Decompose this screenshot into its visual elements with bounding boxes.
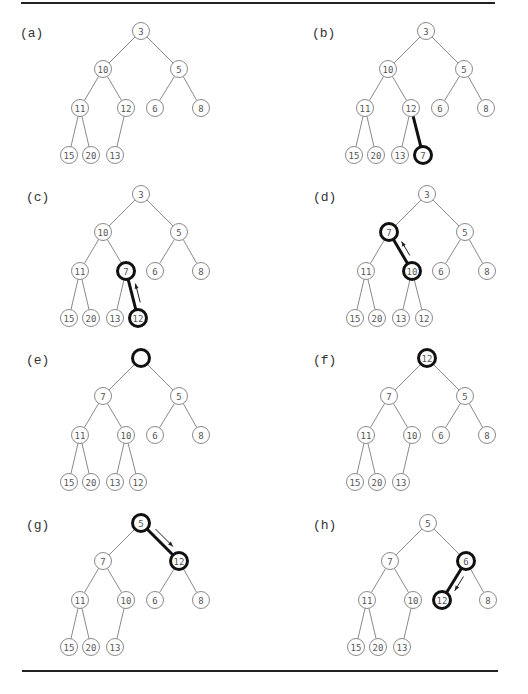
heap-node: 3 [418, 23, 435, 40]
node-value: 15 [64, 151, 75, 161]
tree-edge [117, 116, 124, 146]
heap-node: 11 [72, 263, 89, 280]
node-value: 11 [361, 267, 372, 277]
panel-e: (e)7511106815201312 [26, 350, 210, 491]
tree-edge [392, 76, 406, 100]
panel-label: (h) [313, 518, 336, 533]
tree-edge [404, 608, 411, 638]
heap-node: 10 [95, 224, 112, 241]
heap-node: 15 [61, 639, 78, 656]
panel-label: (g) [26, 518, 49, 533]
tree-edge [368, 279, 375, 309]
node-value: 13 [396, 478, 407, 488]
node-value: 10 [407, 431, 418, 441]
heap-node: 11 [358, 427, 375, 444]
tree-edge [367, 116, 374, 146]
tree-edge [469, 403, 483, 427]
tree-edge [107, 568, 121, 592]
heap-node: 20 [83, 310, 100, 327]
heap-node: 15 [347, 474, 364, 491]
panel-b: (b)31051112681520137 [312, 23, 495, 164]
heap-node: 15 [61, 147, 78, 164]
node-value: 12 [437, 596, 448, 606]
heap-node: 15 [346, 147, 363, 164]
tree-edge [109, 364, 135, 390]
heap-node: 6 [147, 263, 164, 280]
node-value: 10 [408, 596, 419, 606]
heap-node: 13 [107, 639, 124, 656]
tree-edge [183, 239, 197, 263]
heap-node: 11 [357, 100, 374, 117]
node-value: 11 [75, 267, 86, 277]
tree-edge [433, 364, 459, 390]
node-value: 6 [152, 431, 157, 441]
tree-edge [394, 568, 408, 592]
tree-edge [403, 443, 410, 473]
heap-node: 5 [457, 388, 474, 405]
tree-edge [128, 279, 136, 310]
tree-edge [468, 76, 482, 100]
panel-label: (c) [26, 190, 49, 205]
tree-edge [368, 443, 375, 473]
tree-edge [159, 403, 174, 428]
node-value: 3 [423, 27, 428, 37]
tree-edge [394, 37, 420, 63]
tree-edge [395, 364, 421, 390]
heap-node: 6 [432, 100, 449, 117]
heap-node: 6 [458, 553, 475, 570]
node-value: 6 [152, 596, 157, 606]
heap-node: 12 [171, 553, 188, 570]
tree-edge [369, 76, 383, 100]
heap-node: 20 [369, 474, 386, 491]
node-value: 15 [64, 643, 75, 653]
heap-node: 20 [370, 639, 387, 656]
node-value: 15 [350, 478, 361, 488]
tree-edge [147, 200, 173, 226]
node-value: 6 [437, 104, 442, 114]
heap-node: 15 [61, 310, 78, 327]
heap-node: 5 [171, 224, 188, 241]
tree-edge [446, 568, 461, 593]
heap-node: 5 [456, 61, 473, 78]
heap-node: 3 [133, 186, 150, 203]
tree-edge [107, 76, 121, 100]
node-value: 13 [395, 151, 406, 161]
node-value: 20 [371, 151, 382, 161]
node-value: 12 [133, 478, 144, 488]
tree-edge [445, 403, 460, 428]
node-value: 11 [361, 431, 372, 441]
heap-node: 13 [107, 310, 124, 327]
heap-node: 12 [118, 100, 135, 117]
tree-edge [82, 443, 89, 473]
node-value: 3 [424, 190, 429, 200]
heap-node: 15 [348, 639, 365, 656]
heap-node: 12 [434, 592, 451, 609]
node-value: 13 [397, 643, 408, 653]
node-value: 7 [386, 392, 391, 402]
tree-edge [434, 529, 460, 555]
node-value: 15 [349, 151, 360, 161]
heap-node: 6 [147, 427, 164, 444]
heap-node: 10 [118, 427, 135, 444]
swap-arrow-icon [155, 529, 172, 546]
node-value: 5 [462, 228, 467, 238]
heap-node: 8 [478, 100, 495, 117]
swap-arrow-icon [135, 284, 141, 303]
node-value: 10 [383, 65, 394, 75]
node-value: 6 [438, 267, 443, 277]
node-value: 6 [463, 557, 468, 567]
panel-f: (f)1275111068152013 [313, 350, 496, 491]
node-value: 20 [373, 643, 384, 653]
heap-figure: (a)3105111268152013(b)31051112681520137(… [0, 0, 528, 694]
tree-edge [370, 403, 384, 427]
tree-edge [84, 76, 98, 100]
tree-edge [128, 443, 136, 474]
panel-label: (e) [26, 353, 49, 368]
heap-node: 10 [404, 427, 421, 444]
tree-edge [159, 76, 174, 101]
tree-edge [183, 76, 197, 100]
tree-edge [357, 279, 364, 309]
node-value: 20 [86, 314, 97, 324]
heap-node: 13 [393, 474, 410, 491]
panel-g: (g)5712111068152013 [26, 515, 210, 656]
